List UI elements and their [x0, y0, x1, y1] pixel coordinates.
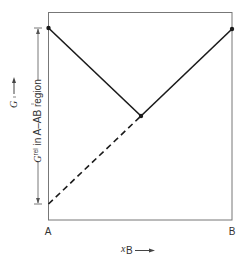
dimension-label: Grel in A–AB region	[32, 79, 43, 162]
y-axis-label: G	[8, 101, 19, 108]
line-AB-to-B	[141, 29, 232, 116]
y-axis-arrow-icon	[12, 77, 16, 83]
arrowhead-up-icon	[36, 29, 40, 35]
line-A-to-AB	[49, 28, 142, 116]
point-A	[46, 26, 50, 30]
region-text: in A–AB region	[32, 79, 43, 148]
diagram-canvas: Grel in A–AB region G A B x B	[0, 0, 245, 255]
point-AB	[139, 114, 143, 118]
dashed-extrapolation-line	[49, 116, 142, 204]
point-B	[230, 27, 234, 31]
label-A: A	[45, 226, 52, 237]
y-axis-variable: G	[8, 101, 19, 108]
label-B: B	[229, 226, 236, 237]
x-axis-arrow-icon	[149, 249, 155, 253]
svg-text:Grel in A–AB region: Grel in A–AB region	[32, 79, 43, 162]
g-symbol: G	[32, 155, 43, 162]
arrowhead-down-icon	[36, 198, 40, 204]
x-axis-subscript: B	[126, 245, 133, 255]
